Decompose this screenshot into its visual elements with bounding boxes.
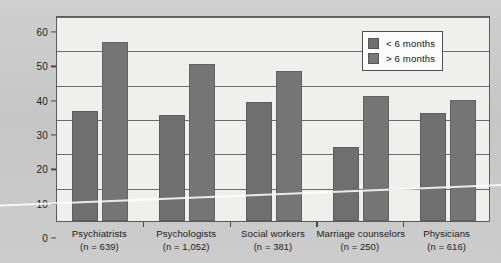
legend-item: < 6 months xyxy=(368,36,435,51)
legend-swatch-series-b xyxy=(368,53,379,64)
bar-psychologists-series-1 xyxy=(159,115,185,221)
x-category-count: (n = 381) xyxy=(230,240,317,253)
legend-label-series-a: < 6 months xyxy=(386,38,435,49)
x-category-count: (n = 1,052) xyxy=(143,240,230,253)
x-category-name: Social workers xyxy=(230,227,317,240)
y-tick-label-0: 0 xyxy=(42,233,48,244)
bar-social-workers-series-2 xyxy=(276,71,302,221)
bar-psychiatrists-series-1 xyxy=(72,111,98,221)
x-category-label-physicians: Physicians(n = 616) xyxy=(403,227,490,253)
x-category-label-marriage-counselors: Marriage counselors(n = 250) xyxy=(316,227,403,253)
x-category-count: (n = 616) xyxy=(403,240,490,253)
y-tick-label-20: 20 xyxy=(36,164,48,175)
bar-psychiatrists-series-2 xyxy=(102,42,128,221)
y-tick-label-30: 30 xyxy=(36,130,48,141)
x-axis: Psychiatrists(n = 639)Psychologists(n = … xyxy=(56,222,490,263)
bar-marriage-counselors-series-2 xyxy=(363,96,389,221)
x-category-name: Psychiatrists xyxy=(56,227,143,240)
x-category-label-social-workers: Social workers(n = 381) xyxy=(230,227,317,253)
bar-psychologists-series-2 xyxy=(189,64,215,221)
bar-physicians-series-1 xyxy=(420,113,446,221)
y-tick-label-50: 50 xyxy=(36,61,48,72)
x-category-name: Marriage counselors xyxy=(316,227,403,240)
y-tick-label-60: 60 xyxy=(36,27,48,38)
bar-social-workers-series-1 xyxy=(246,102,272,221)
x-category-label-psychologists: Psychologists(n = 1,052) xyxy=(143,227,230,253)
bar-marriage-counselors-series-1 xyxy=(333,147,359,221)
gridline-60 xyxy=(57,17,489,18)
x-category-name: Physicians xyxy=(403,227,490,240)
x-category-count: (n = 250) xyxy=(316,240,403,253)
figure-container: % Major improvement 0102030405060 < 6 mo… xyxy=(0,0,501,263)
legend-item: > 6 months xyxy=(368,51,435,66)
legend-label-series-b: > 6 months xyxy=(386,53,435,64)
legend: < 6 months > 6 months xyxy=(362,31,443,71)
y-axis-ticks: 0102030405060 xyxy=(0,16,56,222)
x-category-label-psychiatrists: Psychiatrists(n = 639) xyxy=(56,227,143,253)
bar-physicians-series-2 xyxy=(450,100,476,221)
x-category-count: (n = 639) xyxy=(56,240,143,253)
x-category-name: Psychologists xyxy=(143,227,230,240)
y-tick-label-40: 40 xyxy=(36,95,48,106)
legend-swatch-series-a xyxy=(368,38,379,49)
y-tick-label-10: 10 xyxy=(36,198,48,209)
